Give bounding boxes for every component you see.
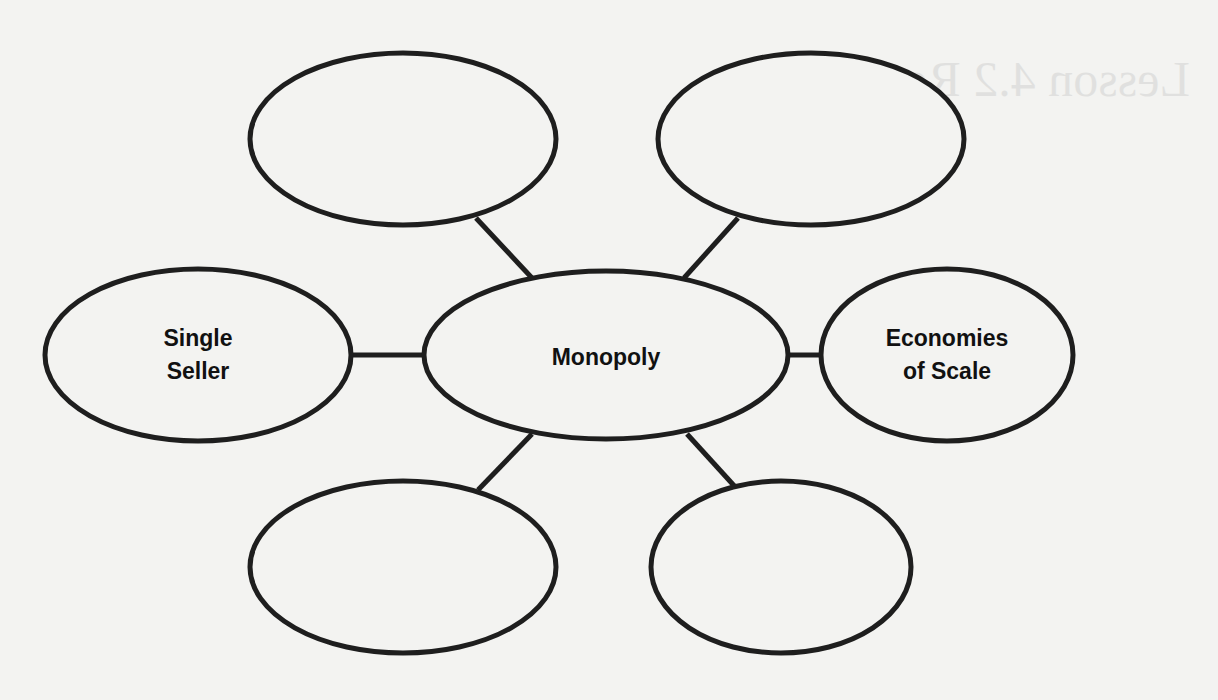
blank-node-bottom-right[interactable]	[676, 508, 886, 626]
node-left-label: Single Seller	[163, 322, 232, 388]
blank-node-top-right[interactable]	[688, 80, 934, 198]
worksheet-page: Lesson 4.2 Reading Single Seller Monopol…	[0, 0, 1218, 700]
node-right-label: Economies of Scale	[886, 322, 1009, 388]
connector-top-left	[476, 218, 532, 278]
connector-bottom-left	[478, 434, 532, 490]
node-right-label-line2: of Scale	[886, 355, 1009, 388]
node-left-label-line1: Single	[163, 322, 232, 355]
node-center-label: Monopoly	[552, 341, 661, 374]
connector-top-right	[684, 218, 738, 278]
blank-node-top-left[interactable]	[280, 80, 526, 198]
node-left-label-line2: Seller	[163, 355, 232, 388]
connector-bottom-right	[687, 434, 738, 490]
node-right-label-line1: Economies	[886, 322, 1009, 355]
blank-node-bottom-left[interactable]	[280, 508, 526, 626]
